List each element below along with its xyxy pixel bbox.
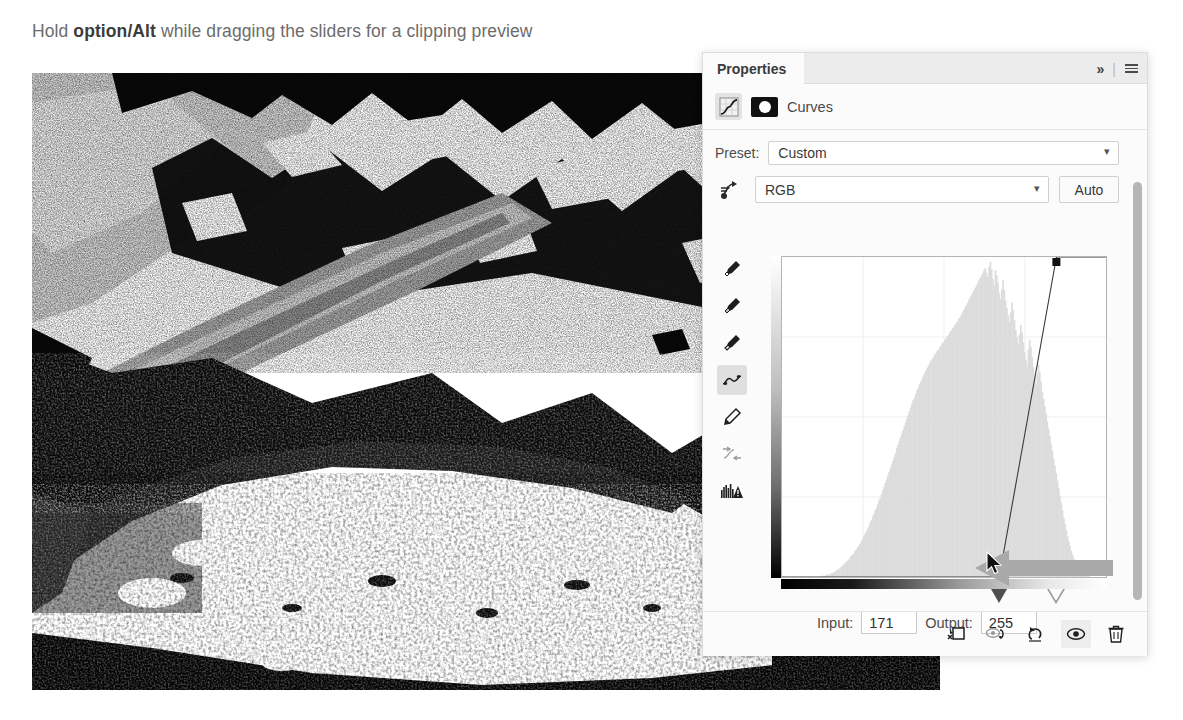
chevron-down-icon: ▾ [1104,145,1110,158]
curve-point-tool[interactable] [717,365,747,395]
preset-select[interactable]: Custom ▾ [768,141,1119,165]
eyedropper-gray-point[interactable] [717,291,747,321]
histogram-warning-icon[interactable] [717,476,747,506]
view-previous-state-button[interactable] [981,620,1011,648]
reset-adjustment-button[interactable] [1021,620,1051,648]
caption-bold: option/Alt [73,21,156,41]
toggle-layer-visibility-button[interactable] [1061,620,1091,648]
histogram-bars [821,262,1090,577]
smooth-curve-tool[interactable] [717,439,747,469]
layer-mask-icon[interactable] [751,97,778,117]
preset-row: Preset: Custom ▾ [703,130,1147,165]
mouse-cursor [986,551,1004,577]
auto-button-label: Auto [1075,182,1104,198]
auto-button[interactable]: Auto [1059,176,1119,203]
panel-bottom-toolbar [703,611,1147,656]
channel-row: RGB ▾ Auto [703,165,1147,203]
caption-prefix: Hold [32,21,73,41]
delete-adjustment-button[interactable] [1101,620,1131,648]
curves-plot [782,257,1106,577]
chevron-double-right-icon[interactable]: » [1097,61,1104,77]
caption-suffix: while dragging the sliders for a clippin… [156,21,533,41]
curves-adjustment-icon[interactable] [715,93,742,120]
curves-graph[interactable] [781,256,1107,578]
control-point-white [1052,258,1060,266]
adjustment-title: Curves [787,99,833,115]
panel-tab-bar: Properties » | [703,53,1147,84]
adjustment-title-row: Curves [703,84,1147,130]
panel-tabbar-controls: » | [1097,53,1138,84]
hamburger-menu-icon[interactable] [1125,64,1138,73]
eyedropper-white-point[interactable] [717,328,747,358]
channel-select[interactable]: RGB ▾ [755,176,1049,203]
panel-vertical-scrollbar[interactable] [1133,182,1142,600]
eyedropper-black-point[interactable] [717,254,747,284]
clip-to-layer-button[interactable] [941,620,971,648]
preset-value: Custom [778,145,826,161]
chevron-down-icon: ▾ [1034,182,1040,195]
preset-label: Preset: [715,145,759,161]
tab-properties-label: Properties [717,61,786,77]
output-gradient-bar [771,256,781,578]
instruction-caption: Hold option/Alt while dragging the slide… [32,21,533,42]
curves-tool-column [717,254,747,506]
divider: | [1112,61,1116,77]
tab-properties[interactable]: Properties [703,53,804,84]
targeted-adjustment-icon[interactable] [715,179,745,201]
pencil-draw-tool[interactable] [717,402,747,432]
channel-value: RGB [765,182,795,198]
screenshot-root: Hold option/Alt while dragging the slide… [0,0,1183,720]
